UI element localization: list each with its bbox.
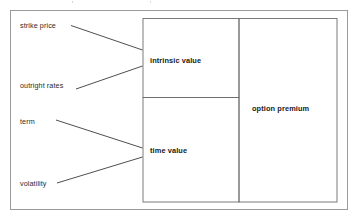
connector-outright-rates-to-intrinsic-value	[76, 66, 143, 89]
caption-intrinsic-value: intrinsic value	[150, 57, 201, 64]
caption-time-value: time value	[150, 147, 187, 154]
connector-volatility-to-time-value	[57, 157, 143, 183]
caption-option-premium: option premium	[252, 105, 309, 112]
connector-strike-price-to-intrinsic-value	[71, 26, 143, 51]
connector-term-to-time-value	[56, 120, 143, 148]
diagram-canvas: strike price outright rates term volatil…	[0, 0, 357, 218]
